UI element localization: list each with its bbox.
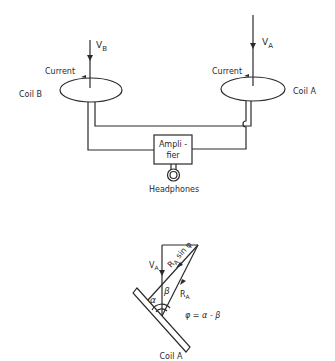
ra-sin-phi-vector bbox=[148, 245, 198, 300]
va-label: VA bbox=[149, 261, 159, 271]
coil-a-group bbox=[192, 15, 285, 149]
arrow-down-icon bbox=[87, 55, 93, 61]
coil-b-lead-right bbox=[95, 102, 243, 126]
current-arrow-icon bbox=[81, 75, 86, 78]
amplifier-label-line2: fier bbox=[166, 151, 180, 160]
coil-a-bottom-label: Coil A bbox=[160, 352, 183, 361]
coil-b-loop bbox=[60, 78, 122, 102]
coil-b-velocity-label: VB bbox=[96, 40, 107, 53]
coil-a-velocity-label: VA bbox=[262, 37, 273, 50]
coil-b-group bbox=[60, 40, 243, 150]
beta-label: β bbox=[163, 286, 170, 296]
headphones-label: Headphones bbox=[149, 185, 199, 194]
coil-a-label: Coil A bbox=[293, 87, 316, 96]
coil-a-current-label: Current bbox=[212, 67, 242, 76]
current-arrow-icon bbox=[244, 74, 249, 77]
coil-b-current-label: Current bbox=[45, 67, 75, 76]
ra-label: RA bbox=[180, 290, 191, 300]
arrow-down-icon bbox=[250, 43, 256, 49]
amplifier-label-line1: Ampli - bbox=[159, 140, 187, 149]
coil-a-lead-left bbox=[192, 101, 246, 149]
coil-b-label: Coil B bbox=[19, 90, 42, 99]
coil-a-lead-right bbox=[243, 101, 251, 126]
coil-diagram-canvas: VB Current Coil B VA Current Coil A Ampl… bbox=[0, 0, 335, 361]
alpha-label: α bbox=[150, 295, 156, 305]
arrow-down-icon bbox=[159, 270, 165, 276]
phi-equation: φ = α - β bbox=[185, 311, 220, 320]
headphones-icon bbox=[168, 164, 180, 181]
